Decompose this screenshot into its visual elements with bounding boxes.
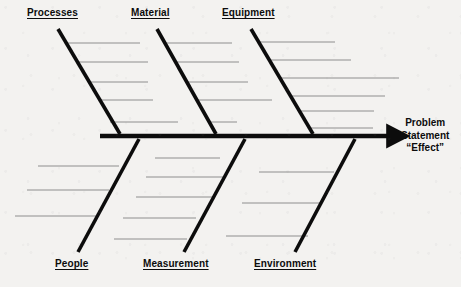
problem-statement-effect-label: Problem Statement “Effect”	[401, 117, 449, 155]
category-label-material: Material	[131, 7, 170, 19]
category-label-processes: Processes	[27, 7, 78, 19]
effect-line-2: Statement	[401, 130, 449, 143]
effect-line-1: Problem	[401, 117, 449, 130]
category-label-environment: Environment	[254, 258, 316, 270]
category-label-measurement: Measurement	[143, 258, 209, 270]
category-label-people: People	[55, 258, 88, 270]
fishbone-diagram-svg	[0, 0, 461, 287]
category-bone-environment	[295, 139, 355, 252]
category-label-equipment: Equipment	[222, 7, 275, 19]
fishbone-diagram-canvas: Processes Material Equipment People Meas…	[0, 0, 461, 287]
category-bone-measurement	[184, 139, 245, 252]
effect-line-3: “Effect”	[401, 142, 449, 155]
category-bone-equipment	[251, 29, 313, 134]
category-bone-people	[78, 139, 139, 252]
